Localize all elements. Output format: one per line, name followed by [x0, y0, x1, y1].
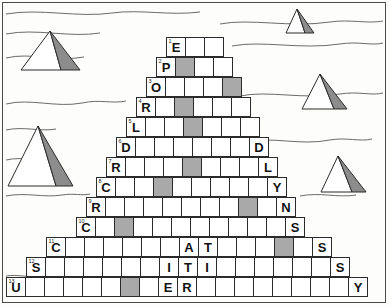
- crossword-cell[interactable]: [257, 197, 277, 217]
- crossword-cell[interactable]: [163, 157, 183, 177]
- crossword-cell[interactable]: [155, 97, 175, 117]
- crossword-cell[interactable]: [95, 217, 115, 237]
- crossword-cell[interactable]: [121, 257, 141, 277]
- crossword-cell[interactable]: [196, 277, 216, 297]
- crossword-cell[interactable]: [240, 117, 260, 137]
- crossword-cell[interactable]: [213, 57, 233, 77]
- crossword-cell[interactable]: [230, 137, 250, 157]
- crossword-cell[interactable]: [184, 77, 204, 97]
- crossword-cell[interactable]: S: [330, 257, 350, 277]
- crossword-cell[interactable]: 7R: [106, 157, 126, 177]
- crossword-cell[interactable]: [292, 257, 312, 277]
- crossword-cell[interactable]: [105, 197, 125, 217]
- crossword-cell[interactable]: 2P: [156, 57, 176, 77]
- crossword-cell[interactable]: [160, 237, 180, 257]
- crossword-grid[interactable]: 1E2P3O4R5L6DD7RL8CY9RN10CS11CATS12SITIS1…: [0, 0, 390, 307]
- crossword-cell[interactable]: [145, 117, 165, 137]
- crossword-cell[interactable]: 9R: [86, 197, 106, 217]
- crossword-cell[interactable]: [152, 217, 172, 237]
- crossword-cell[interactable]: [311, 257, 331, 277]
- crossword-cell[interactable]: [115, 177, 135, 197]
- crossword-cell[interactable]: [220, 157, 240, 177]
- crossword-cell[interactable]: [219, 197, 239, 217]
- crossword-cell[interactable]: 4R: [136, 97, 156, 117]
- crossword-cell[interactable]: N: [276, 197, 296, 217]
- crossword-cell[interactable]: [229, 177, 249, 197]
- crossword-cell[interactable]: [201, 157, 221, 177]
- crossword-cell[interactable]: [125, 157, 145, 177]
- crossword-cell[interactable]: [45, 257, 65, 277]
- crossword-cell[interactable]: [254, 257, 274, 277]
- crossword-cell[interactable]: [171, 217, 191, 237]
- crossword-cell[interactable]: [210, 177, 230, 197]
- crossword-cell[interactable]: [162, 197, 182, 217]
- crossword-cell[interactable]: [272, 277, 292, 297]
- crossword-cell[interactable]: S: [312, 237, 332, 257]
- crossword-cell[interactable]: [216, 257, 236, 277]
- crossword-cell[interactable]: I: [159, 257, 179, 277]
- crossword-cell[interactable]: 13U: [6, 277, 26, 297]
- crossword-cell[interactable]: 5L: [126, 117, 146, 137]
- crossword-cell[interactable]: [82, 277, 102, 297]
- crossword-cell[interactable]: Y: [348, 277, 368, 297]
- crossword-cell[interactable]: Y: [267, 177, 287, 197]
- crossword-cell[interactable]: [124, 197, 144, 217]
- crossword-cell[interactable]: [293, 237, 313, 257]
- crossword-cell[interactable]: I: [197, 257, 217, 277]
- crossword-cell[interactable]: [310, 277, 330, 297]
- crossword-cell[interactable]: 6D: [116, 137, 136, 157]
- crossword-cell[interactable]: [235, 257, 255, 277]
- crossword-cell[interactable]: [144, 157, 164, 177]
- crossword-cell[interactable]: D: [249, 137, 269, 157]
- crossword-cell[interactable]: [247, 217, 267, 237]
- crossword-cell[interactable]: [65, 237, 85, 257]
- crossword-cell[interactable]: 1E: [166, 37, 186, 57]
- crossword-cell[interactable]: [248, 177, 268, 197]
- crossword-cell[interactable]: [200, 197, 220, 217]
- crossword-cell[interactable]: [141, 237, 161, 257]
- crossword-cell[interactable]: [135, 137, 155, 157]
- crossword-cell[interactable]: 11C: [46, 237, 66, 257]
- crossword-cell[interactable]: [103, 237, 123, 257]
- crossword-cell[interactable]: T: [198, 237, 218, 257]
- crossword-cell[interactable]: [172, 177, 192, 197]
- crossword-cell[interactable]: [194, 57, 214, 77]
- crossword-cell[interactable]: [273, 257, 293, 277]
- crossword-cell[interactable]: [291, 277, 311, 297]
- crossword-cell[interactable]: [203, 77, 223, 97]
- crossword-cell[interactable]: [185, 37, 205, 57]
- crossword-cell[interactable]: [204, 37, 224, 57]
- crossword-cell[interactable]: [217, 237, 237, 257]
- crossword-cell[interactable]: [329, 277, 349, 297]
- crossword-cell[interactable]: [83, 257, 103, 277]
- crossword-cell[interactable]: [221, 117, 241, 137]
- crossword-cell[interactable]: [255, 237, 275, 257]
- crossword-cell[interactable]: S: [285, 217, 305, 237]
- crossword-cell[interactable]: [64, 257, 84, 277]
- crossword-cell[interactable]: [209, 217, 229, 237]
- crossword-cell[interactable]: 3O: [146, 77, 166, 97]
- crossword-cell[interactable]: [122, 237, 142, 257]
- crossword-cell[interactable]: [164, 117, 184, 137]
- crossword-cell[interactable]: [140, 257, 160, 277]
- crossword-cell[interactable]: [191, 177, 211, 197]
- crossword-cell[interactable]: 8C: [96, 177, 116, 197]
- crossword-cell[interactable]: [181, 197, 201, 217]
- crossword-cell[interactable]: T: [178, 257, 198, 277]
- crossword-cell[interactable]: [173, 137, 193, 157]
- crossword-cell[interactable]: E: [158, 277, 178, 297]
- crossword-cell[interactable]: [202, 117, 222, 137]
- crossword-cell[interactable]: [165, 77, 185, 97]
- crossword-cell[interactable]: [211, 137, 231, 157]
- crossword-cell[interactable]: [101, 277, 121, 297]
- crossword-cell[interactable]: [231, 97, 251, 117]
- crossword-cell[interactable]: [134, 177, 154, 197]
- crossword-cell[interactable]: L: [258, 157, 278, 177]
- crossword-cell[interactable]: [139, 277, 159, 297]
- crossword-cell[interactable]: [84, 237, 104, 257]
- crossword-cell[interactable]: [63, 277, 83, 297]
- crossword-cell[interactable]: R: [177, 277, 197, 297]
- crossword-cell[interactable]: [215, 277, 235, 297]
- crossword-cell[interactable]: [236, 237, 256, 257]
- crossword-cell[interactable]: [133, 217, 153, 237]
